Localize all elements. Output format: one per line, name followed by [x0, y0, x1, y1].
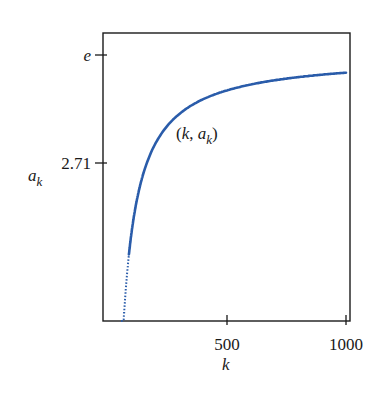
x-axis-label: k — [222, 355, 230, 374]
y-tick-label: e — [83, 46, 91, 65]
y-tick-label: 2.71 — [61, 154, 91, 173]
y-axis-ticks: e2.71 — [61, 46, 107, 173]
point-annotation: (k, ak) — [176, 124, 218, 147]
x-tick-label: 500 — [214, 335, 240, 354]
sequence-curve — [129, 73, 346, 255]
y-axis-label: ak — [28, 166, 43, 189]
chart: e2.71 5001000 (k, ak) ak k — [0, 0, 385, 399]
sequence-curve-dotted — [121, 252, 129, 321]
x-tick-label: 1000 — [329, 335, 363, 354]
